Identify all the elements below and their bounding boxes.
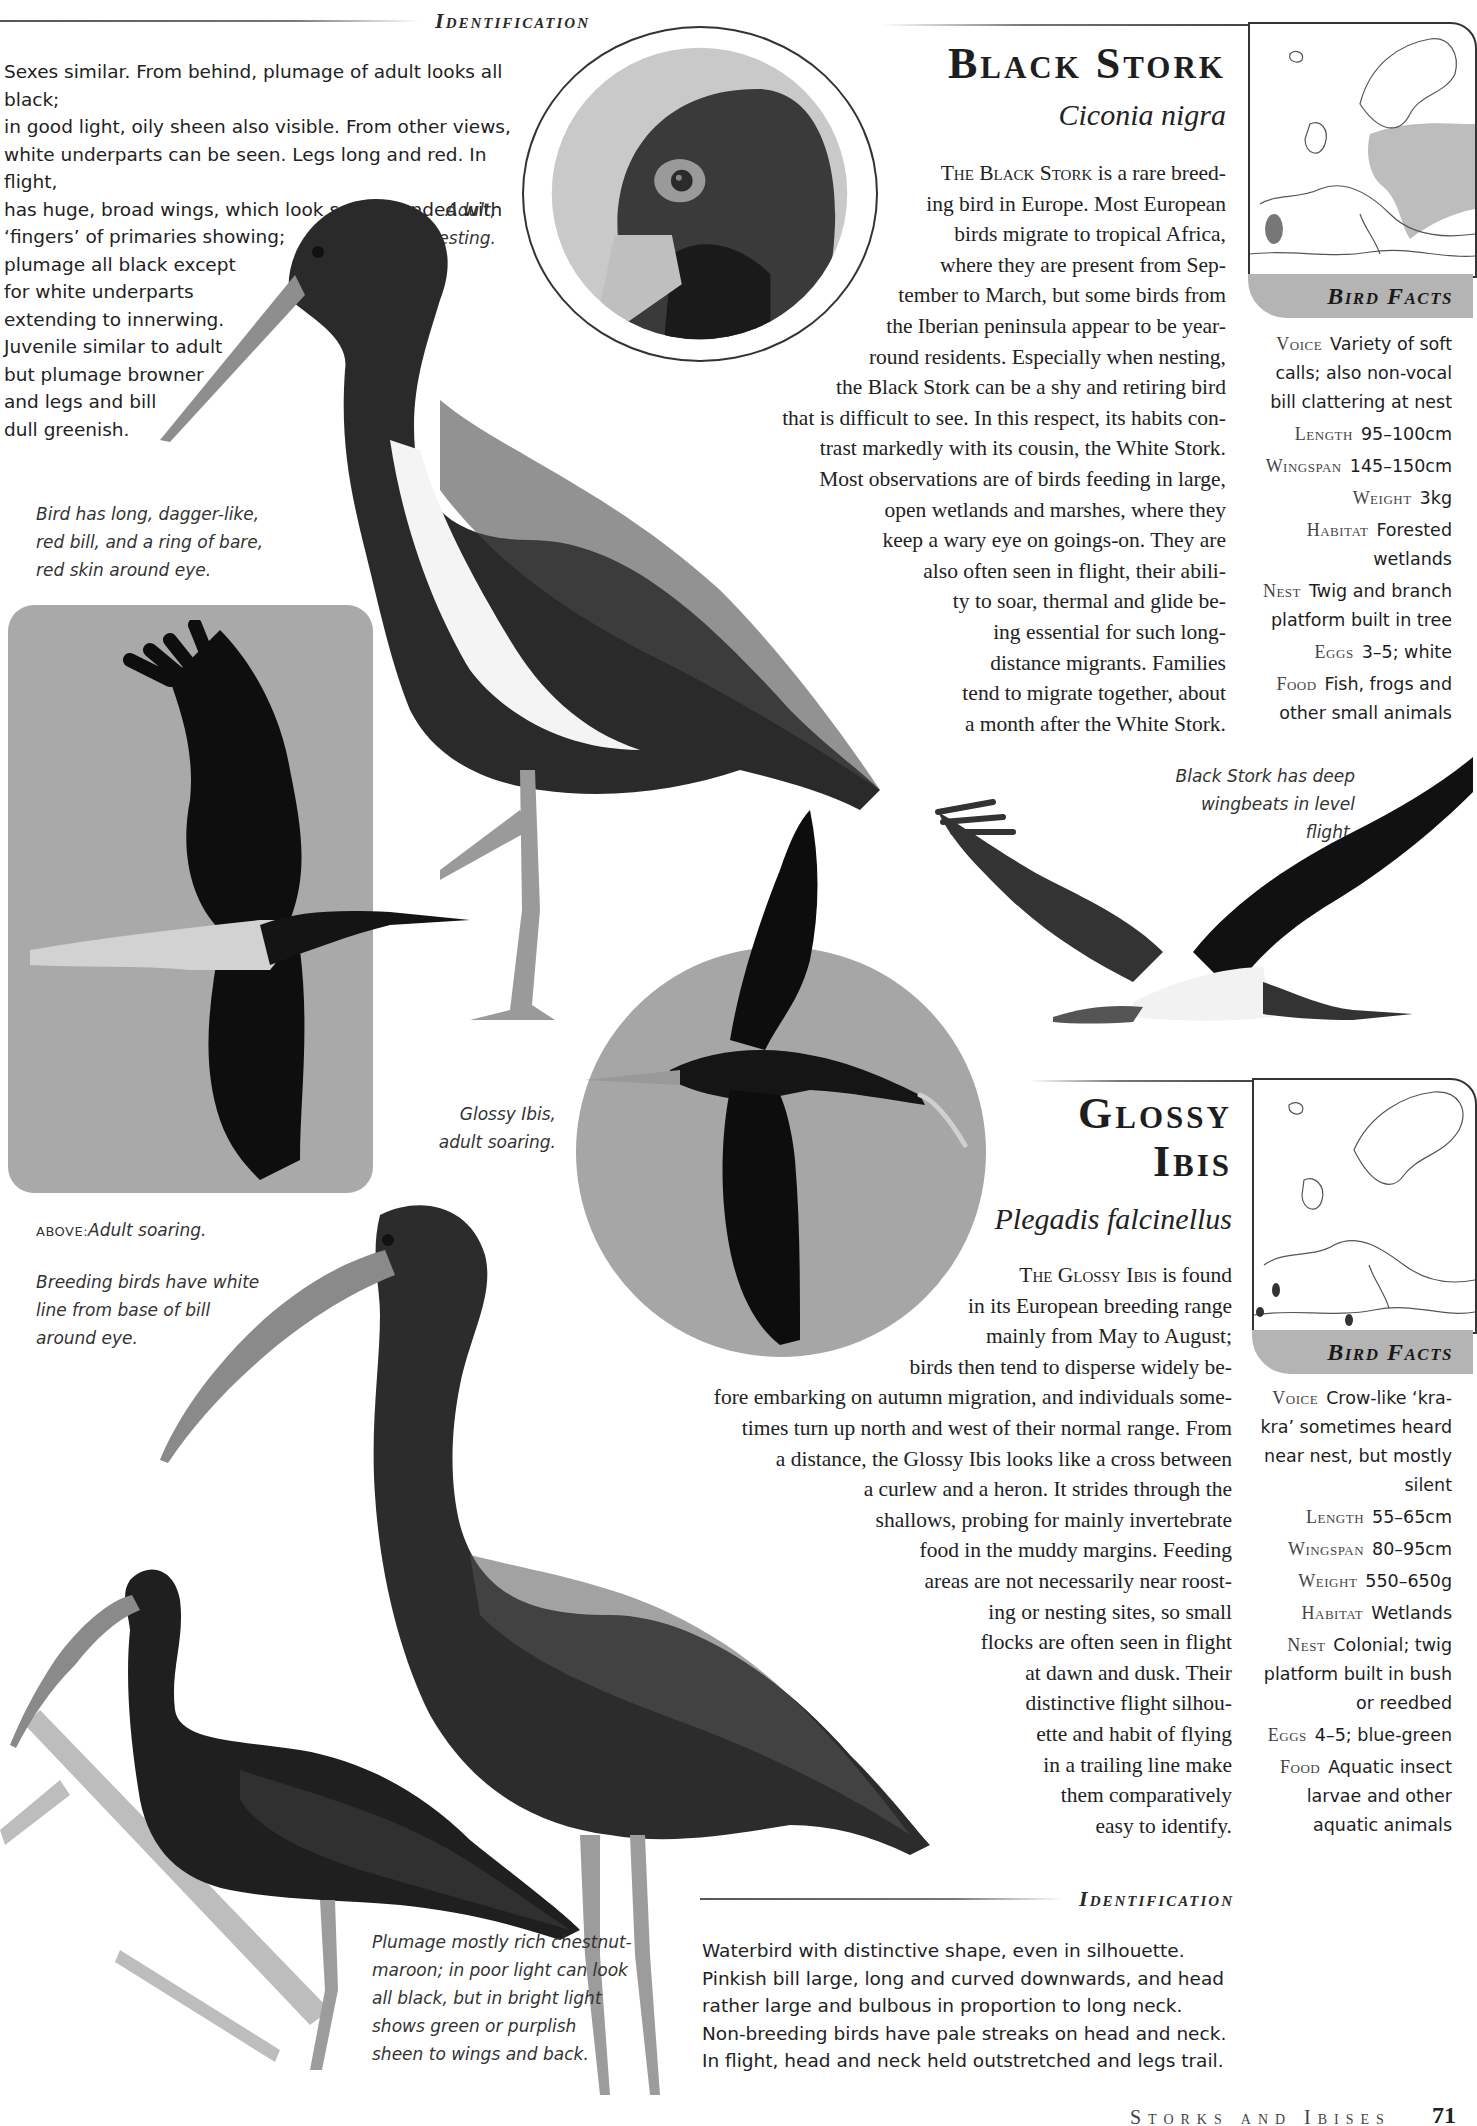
prose-line: the Black Stork can be a shy and retirin… [660, 372, 1226, 403]
page-number: 71 [1432, 2102, 1456, 2126]
fact-value: 550–650g [1365, 1571, 1452, 1591]
prose-line: open wetlands and marshes, where they [660, 495, 1226, 526]
id-line: Pinkish bill large, long and curved down… [702, 1965, 1242, 1993]
caption-line: sheen to wings and back. [372, 2040, 642, 2068]
prose-line: Most observations are of birds feeding i… [660, 464, 1226, 495]
glossy-ibis-bird-facts-tab: Bird Facts [1252, 1330, 1473, 1374]
fact-key: Length [1306, 1507, 1364, 1527]
prose-line: in a trailing line make [660, 1750, 1232, 1781]
caption-plumage: Plumage mostly rich chestnut- maroon; in… [372, 1928, 642, 2068]
prose-line: round residents. Especially when nesting… [660, 342, 1226, 373]
prose-line: the Iberian peninsula appear to be year- [660, 311, 1226, 342]
fact-length: Length55–65cm [1252, 1503, 1452, 1532]
fact-key: Length [1295, 424, 1353, 444]
black-stork-description: The Black Stork is a rare breed- ing bir… [660, 158, 1226, 739]
fact-value: Wetlands [1371, 1603, 1452, 1623]
prose-line: tember to March, but some birds from [660, 280, 1226, 311]
glossy-ibis-description: The Glossy Ibis is found in its European… [660, 1260, 1232, 1841]
prose-line: The Black Stork is a rare breed- [660, 158, 1226, 189]
id-line: in good light, oily sheen also visible. … [4, 113, 524, 141]
fact-weight: Weight550–650g [1252, 1567, 1452, 1596]
fact-key: Nest [1263, 581, 1301, 601]
prose-lead: The Glossy Ibis [1019, 1263, 1156, 1287]
bird-facts-label: Bird Facts [1327, 1339, 1453, 1366]
id-line: Waterbird with distinctive shape, even i… [702, 1937, 1242, 1965]
black-stork-level-flight-illustration [933, 752, 1473, 1052]
prose-lead: The Black Stork [941, 161, 1093, 185]
fact-value: Forested wetlands [1373, 520, 1452, 569]
fact-length: Length95–100cm [1252, 420, 1452, 449]
prose-line: tend to migrate together, about [660, 678, 1226, 709]
fact-nest: NestTwig and branch platform built in tr… [1252, 577, 1452, 635]
caption-line: shows green or purplish [372, 2012, 642, 2040]
prose-line: mainly from May to August; [660, 1321, 1232, 1352]
prose-line: keep a wary eye on goings-on. They are [660, 525, 1226, 556]
id-line: Non-breeding birds have pale streaks on … [702, 2020, 1242, 2048]
fact-weight: Weight3kg [1252, 484, 1452, 513]
europe-map-icon [1250, 24, 1475, 276]
prose-line: food in the muddy margins. Feeding [660, 1535, 1232, 1566]
caption-line: all black, but in bright light [372, 1984, 642, 2012]
prose-line: a curlew and a heron. It strides through… [660, 1474, 1232, 1505]
fact-key: Eggs [1268, 1725, 1307, 1745]
caption-line: adult soaring. [430, 1128, 556, 1156]
fact-key: Voice [1276, 334, 1322, 354]
glossy-ibis-title: Glossy Ibis [960, 1090, 1232, 1186]
prose-line: birds migrate to tropical Africa, [660, 219, 1226, 250]
id-line: rather large and bulbous in proportion t… [702, 1992, 1242, 2020]
fact-key: Wingspan [1288, 1539, 1364, 1559]
prose-line: shallows, probing for mainly invertebrat… [660, 1505, 1232, 1536]
fact-key: Voice [1272, 1388, 1318, 1408]
caption-line: Plumage mostly rich chestnut- [372, 1928, 642, 1956]
fact-key: Wingspan [1266, 456, 1342, 476]
prose-line: ing or nesting sites, so small [660, 1597, 1232, 1628]
prose-line: at dawn and dusk. Their [660, 1658, 1232, 1689]
fact-wingspan: Wingspan80–95cm [1252, 1535, 1452, 1564]
prose-line: ette and habit of flying [660, 1719, 1232, 1750]
fact-key: Habitat [1307, 520, 1369, 540]
fact-eggs: Eggs3–5; white [1252, 638, 1452, 667]
prose-line: ing bird in Europe. Most European [660, 189, 1226, 220]
black-stork-latin-name: Ciconia nigra [900, 98, 1226, 132]
prose-line: ing essential for such long- [660, 617, 1226, 648]
fact-key: Food [1280, 1757, 1320, 1777]
black-stork-identification-heading: Identification [0, 8, 590, 34]
above-prefix: ABOVE: [36, 1224, 88, 1239]
black-stork-range-map [1248, 22, 1477, 278]
prose-line: them comparatively [660, 1780, 1232, 1811]
prose-line: birds then tend to disperse widely be- [660, 1352, 1232, 1383]
black-stork-title: Black Stork [800, 38, 1226, 89]
fact-key: Eggs [1315, 642, 1354, 662]
fact-value: 3kg [1420, 488, 1452, 508]
fact-value: Aquatic insect larvae and other aquatic … [1307, 1757, 1452, 1835]
prose-line: ty to soar, thermal and glide be- [660, 586, 1226, 617]
id-line: Sexes similar. From behind, plumage of a… [4, 58, 524, 113]
id-line: In flight, head and neck held outstretch… [702, 2047, 1242, 2075]
prose-text: is a rare breed- [1092, 161, 1226, 185]
fact-value: 3–5; white [1362, 642, 1452, 662]
bird-facts-label: Bird Facts [1327, 283, 1453, 310]
fact-food: FoodAquatic insect larvae and other aqua… [1252, 1753, 1452, 1840]
fact-value: 145–150cm [1350, 456, 1452, 476]
fact-value: 55–65cm [1372, 1507, 1452, 1527]
fact-habitat: HabitatForested wetlands [1252, 516, 1452, 574]
prose-line: easy to identify. [660, 1811, 1232, 1842]
prose-line: trast markedly with its cousin, the Whit… [660, 433, 1226, 464]
fact-key: Weight [1353, 488, 1412, 508]
fact-wingspan: Wingspan145–150cm [1252, 452, 1452, 481]
fact-key: Nest [1287, 1635, 1325, 1655]
prose-line: distinctive flight silhou- [660, 1688, 1232, 1719]
fact-voice: VoiceVariety of soft calls; also non-voc… [1252, 330, 1452, 417]
glossy-ibis-identification-heading: Identification [700, 1886, 1234, 1912]
prose-line: times turn up north and west of their no… [660, 1413, 1232, 1444]
fact-food: FoodFish, frogs and other small animals [1252, 670, 1452, 728]
fact-key: Weight [1298, 1571, 1357, 1591]
caption-line: Glossy Ibis, [430, 1100, 556, 1128]
heading-rule [0, 20, 419, 22]
europe-map-icon [1254, 1080, 1475, 1332]
prose-line: that is difficult to see. In this respec… [660, 403, 1226, 434]
black-stork-header-rule [880, 24, 1248, 26]
black-stork-facts-list: VoiceVariety of soft calls; also non-voc… [1252, 330, 1452, 731]
prose-line: where they are present from Sep- [660, 250, 1226, 281]
fact-nest: NestColonial; twig platform built in bus… [1252, 1631, 1452, 1718]
